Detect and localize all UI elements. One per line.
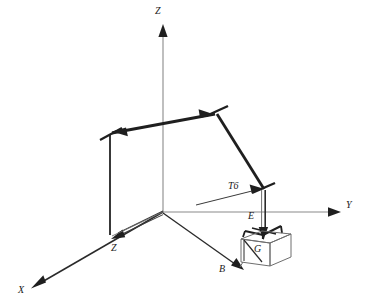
diagram-vector-layer [0, 0, 367, 306]
diagram-canvas: Z Y X Z T6 E G B [0, 0, 367, 306]
y-axis-label: Y [346, 200, 352, 210]
x-axis-label: X [18, 285, 24, 295]
x-axis-arrowhead [31, 275, 46, 288]
base-to-upright [112, 212, 163, 236]
base-z-label: Z [111, 243, 117, 253]
b-vector-line [163, 213, 235, 264]
b-frame-label: B [219, 264, 225, 274]
y-axis-arrowhead [328, 207, 341, 216]
upper-arm-group [100, 106, 275, 193]
z-axis-arrowhead [158, 24, 167, 37]
x-axis-line [42, 212, 163, 282]
e-frame-label: E [248, 211, 254, 221]
t6-pointer-line [196, 191, 252, 205]
gripper-finger-left-tip [243, 231, 245, 237]
g-frame-label: G [254, 244, 261, 254]
base-z-line-lower [118, 215, 163, 236]
gripper-finger-right-tip [281, 226, 282, 233]
forearm-link [217, 114, 264, 189]
b-vector-group [163, 213, 244, 270]
object-box-group [241, 231, 291, 266]
t6-frame-label: T6 [228, 181, 239, 191]
z-axis-label: Z [155, 6, 161, 16]
base-link-group [112, 212, 163, 236]
box-right-face [270, 234, 291, 266]
